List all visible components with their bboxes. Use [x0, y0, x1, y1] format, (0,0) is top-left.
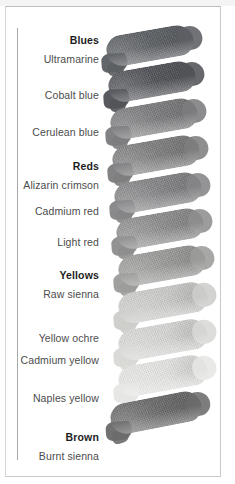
paint-swatch: [116, 352, 210, 398]
swatch-dry-fade: [108, 96, 200, 142]
vertical-rule: [17, 28, 18, 460]
swatch-tip: [184, 171, 212, 199]
swatch-tip: [182, 134, 210, 162]
pigment-label: Cerulean blue: [32, 127, 99, 138]
paint-swatch: [108, 389, 204, 437]
paint-swatch-chart: BluesUltramarineCobalt blueCerulean blue…: [0, 0, 235, 484]
swatch-heel-spur: [118, 391, 138, 408]
swatch-heel-spur: [106, 60, 126, 77]
swatch-heel: [111, 236, 138, 257]
pigment-label: Cobalt blue: [45, 90, 99, 101]
swatch-dry-fade: [106, 59, 198, 105]
swatch-heel-spur: [118, 355, 138, 372]
swatch-heel-spur: [118, 280, 138, 297]
swatch-heel-spur: [108, 96, 128, 113]
swatch-dry-fade: [108, 389, 204, 437]
pigment-label: Burnt sienna: [39, 451, 99, 462]
swatch-body: [106, 59, 198, 105]
swatch-tip: [190, 281, 218, 309]
swatch-heel: [113, 273, 140, 294]
paint-swatch: [116, 279, 210, 325]
swatch-heel-spur: [116, 243, 136, 260]
swatch-dry-fade: [116, 243, 208, 289]
swatch-body: [110, 133, 202, 179]
paint-swatch: [112, 170, 204, 216]
swatch-tip: [184, 390, 212, 418]
pigment-label: Cadmium red: [35, 206, 99, 217]
pigment-label: Light red: [57, 237, 99, 248]
swatch-heel: [113, 383, 140, 404]
paint-swatch: [110, 133, 202, 179]
swatch-dry-fade: [116, 352, 210, 398]
swatch-heel-spur: [112, 170, 132, 187]
swatch-body: [108, 96, 200, 142]
swatch-heel: [105, 420, 133, 441]
swatch-body: [116, 243, 208, 289]
swatch-dry-fade: [116, 279, 210, 325]
swatch-tip: [190, 354, 218, 382]
paint-swatch: [104, 23, 196, 69]
paint-swatch: [116, 243, 208, 289]
swatch-heel-spur: [110, 133, 130, 150]
swatch-dry-fade: [112, 170, 204, 216]
swatch-body: [104, 23, 196, 69]
swatch-body: [108, 389, 204, 437]
swatch-tip: [188, 244, 216, 272]
paint-swatch: [114, 206, 206, 252]
pigment-label: Raw sienna: [43, 289, 99, 300]
swatch-body: [116, 352, 210, 398]
swatch-heel: [113, 310, 140, 331]
swatch-tip: [180, 97, 208, 125]
swatch-body: [112, 170, 204, 216]
swatch-dry-fade: [110, 133, 202, 179]
swatch-heel: [107, 163, 134, 184]
group-label: Reds: [73, 161, 99, 172]
paint-swatch: [106, 59, 198, 105]
swatch-heel-spur: [114, 207, 134, 224]
swatch-heel-spur: [118, 318, 138, 335]
group-label: Blues: [70, 35, 99, 46]
group-label: Brown: [66, 432, 99, 443]
pigment-label: Naples yellow: [33, 393, 99, 404]
swatch-body: [116, 316, 210, 362]
swatch-heel: [103, 89, 130, 110]
paint-swatch: [116, 316, 210, 362]
pigment-label: Ultramarine: [44, 54, 99, 65]
swatch-dry-fade: [116, 316, 210, 362]
swatch-tip: [190, 318, 218, 346]
swatch-column: [0, 0, 235, 484]
swatch-body: [114, 206, 206, 252]
swatch-body: [116, 279, 210, 325]
group-label: Yellows: [59, 270, 99, 281]
swatch-heel: [109, 200, 136, 221]
paint-swatch: [108, 96, 200, 142]
swatch-tip: [176, 24, 204, 52]
pigment-label: Cadmium yellow: [21, 355, 99, 366]
swatch-heel-spur: [111, 428, 131, 445]
pigment-label: Yellow ochre: [39, 333, 99, 344]
swatch-dry-fade: [104, 23, 196, 69]
swatch-heel: [113, 347, 140, 368]
swatch-dry-fade: [114, 206, 206, 252]
pigment-label: Alizarin crimson: [23, 180, 99, 191]
swatch-heel: [101, 53, 128, 74]
swatch-heel: [105, 126, 132, 147]
swatch-tip: [178, 60, 206, 88]
swatch-tip: [186, 207, 214, 235]
